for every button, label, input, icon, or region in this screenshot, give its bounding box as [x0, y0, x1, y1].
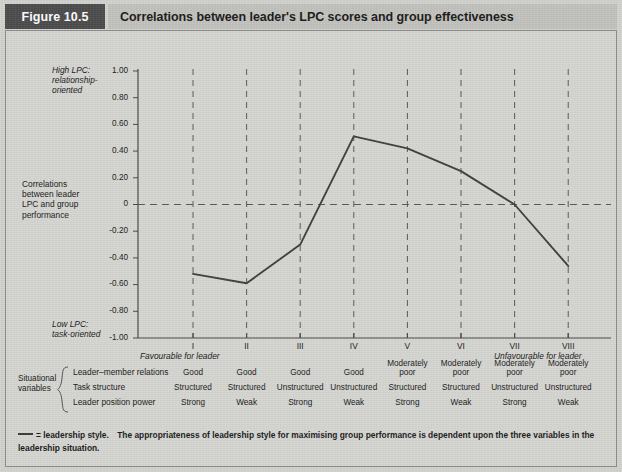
- table-cell: Weak: [536, 398, 600, 407]
- y-label-line1: Correlations: [22, 179, 102, 189]
- table-row-label: Leader–member relations: [73, 368, 168, 377]
- y-label-line3: LPC and group: [22, 199, 102, 209]
- figure-body-frame: 1.000.800.600.400.200-0.20-0.40-0.60-0.8…: [5, 30, 617, 467]
- y-axis-tick-label: -0.20: [94, 227, 128, 235]
- x-axis-tick-label-VII: VII: [495, 342, 535, 351]
- y-note-high-line3: oriented: [52, 85, 118, 95]
- y-note-high-line1: High LPC:: [52, 65, 118, 75]
- x-axis-note-favourable: Favourable for leader: [140, 351, 220, 361]
- y-note-low-line1: Low LPC:: [52, 319, 122, 329]
- figure-header: Figure 10.5 Correlations between leader'…: [5, 4, 617, 29]
- x-axis-tick-label-IV: IV: [334, 342, 374, 351]
- y-label-line2: between leader: [22, 189, 102, 199]
- y-axis-tick-label: -0.40: [94, 254, 128, 262]
- y-axis-tick-label: 0.40: [94, 147, 128, 155]
- figure-footer-note: = leadership style. The appropriateness …: [18, 429, 603, 454]
- table-cell-line: poor: [536, 368, 600, 377]
- y-axis-note-high: High LPC: relationship- oriented: [52, 65, 118, 96]
- y-label-line4: performance: [22, 210, 102, 220]
- x-axis-tick-label-II: II: [227, 342, 267, 351]
- table-cell: Unstructured: [536, 383, 600, 392]
- line-dash-legend-icon: [18, 433, 33, 435]
- y-axis-label-correlations: Correlations between leader LPC and grou…: [22, 179, 102, 220]
- x-axis-tick-label-V: V: [387, 342, 427, 351]
- figure-title: Correlations between leader's LPC scores…: [108, 4, 617, 29]
- y-axis-tick-label: -0.80: [94, 307, 128, 315]
- figure-page: Figure 10.5 Correlations between leader'…: [0, 0, 622, 472]
- y-axis-note-low: Low LPC: task-oriented: [52, 319, 122, 339]
- figure-number-badge: Figure 10.5: [5, 4, 105, 29]
- table-row-label: Leader position power: [73, 398, 155, 407]
- table-cell: Moderatelypoor: [536, 359, 600, 377]
- y-axis-tick-label: -0.60: [94, 280, 128, 288]
- leadership-style-line: [193, 136, 568, 283]
- table-row-label: Task structure: [73, 383, 125, 392]
- x-axis-tick-label-III: III: [280, 342, 320, 351]
- y-note-high-line2: relationship-: [52, 75, 118, 85]
- table-cell-line: Moderately: [536, 359, 600, 368]
- x-axis-tick-label-I: I: [173, 342, 213, 351]
- footer-text: = leadership style. The appropriateness …: [18, 430, 594, 453]
- y-note-low-line2: task-oriented: [52, 329, 122, 339]
- table-cell-line: Unstructured: [536, 383, 600, 392]
- table-brace-icon: [56, 366, 70, 414]
- x-axis-tick-label-VIII: VIII: [548, 342, 588, 351]
- table-cell-line: Weak: [536, 398, 600, 407]
- y-axis-tick-label: 0.60: [94, 120, 128, 128]
- x-axis-tick-label-VI: VI: [441, 342, 481, 351]
